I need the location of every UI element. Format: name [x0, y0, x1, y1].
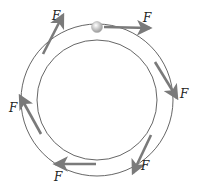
outer-track: [21, 24, 173, 176]
force-label-upper-right: F: [179, 87, 189, 101]
force-arrow-top: [104, 27, 150, 28]
force-label-lower-right: F: [140, 159, 150, 173]
force-arrow-left: [20, 96, 41, 134]
force-label-bottom: F: [53, 170, 63, 184]
force-label-top: F: [142, 11, 152, 25]
ball: [92, 22, 103, 33]
circular-motion-diagram: FFFFFF: [0, 0, 199, 186]
inner-track: [37, 40, 157, 160]
force-label-left: F: [8, 101, 18, 115]
force-label-upper-left: F: [51, 9, 61, 23]
